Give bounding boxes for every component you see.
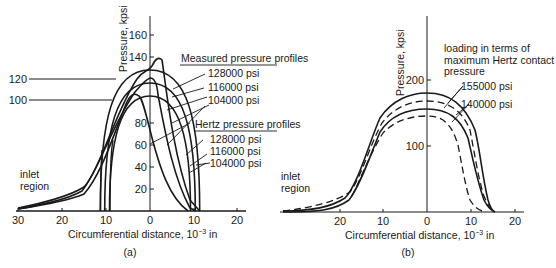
panel-a-xlabel: Circumferential distance, 10−3 in	[68, 228, 217, 240]
panel-a-xtick: 30	[12, 214, 24, 226]
panel-b-140000-hertz	[352, 116, 486, 212]
panel-b-xtick: 20	[509, 215, 521, 227]
panel-b-155000-measured	[283, 93, 495, 212]
panel-a-xtick: 20	[56, 214, 68, 226]
panel-a-xtick: 10	[100, 214, 112, 226]
panel-a-caption: (a)	[124, 246, 137, 258]
panel-a-labels: 30 20 10 0 10 20 20 40 60 80 100 120 140…	[9, 5, 309, 258]
panel-a-ytick: 40	[135, 161, 147, 173]
panel-b-xtick: 20	[334, 215, 346, 227]
panel-b-labels: 20 10 0 10 20 100 200 Pressure, kpsi inl…	[281, 29, 554, 258]
panel-b-140000-measured	[283, 109, 495, 212]
panel-a-legend-measured-title: Measured pressure profiles	[181, 52, 308, 64]
panel-b-caption: (b)	[402, 246, 415, 258]
panel-a-xtick: 10	[188, 214, 200, 226]
panel-a-ytick: 60	[135, 139, 147, 151]
panel-a-xtick: 20	[231, 214, 243, 226]
panel-b-ylabel: Pressure, kpsi	[394, 29, 406, 96]
figure: 30 20 10 0 10 20 20 40 60 80 100 120 140…	[0, 0, 556, 268]
panel-b-155000-hertz	[283, 101, 494, 212]
panel-a-legend-hertz-title: Hertz pressure profiles	[195, 118, 301, 130]
panel-b-xlabel: Circumferential distance, 10−3 in	[345, 229, 494, 241]
panel-a-xtick: 0	[147, 214, 153, 226]
panel-a	[16, 16, 277, 211]
panel-a-ytick: 120	[9, 73, 27, 85]
panel-b-inlet-label: region	[281, 182, 310, 194]
panel-b-xtick: 10	[377, 215, 389, 227]
panel-a-ytick: 160	[129, 29, 147, 41]
panel-a-ytick: 20	[135, 183, 147, 195]
panel-b-legend-item: 140000 psi	[461, 98, 512, 110]
panel-a-legend-hertz-item: 128000 psi	[210, 133, 261, 145]
panel-b-xtick: 10	[465, 215, 477, 227]
panel-a-ylabel: Pressure, kpsi	[117, 5, 129, 72]
panel-b-legend-item: 155000 psi	[461, 80, 512, 92]
panel-a-ytick: 100	[9, 94, 27, 106]
panel-a-legend-hertz-item: 116000 psi	[210, 145, 261, 157]
panel-b-legend-title: pressure	[444, 65, 485, 77]
panel-a-inlet-label: inlet	[20, 168, 39, 180]
panel-a-ytick: 140	[129, 51, 147, 63]
panel-a-legend-measured-item: 116000 psi	[208, 81, 259, 93]
panel-a-legend-measured-item: 104000 psi	[208, 94, 259, 106]
panel-b-ytick: 200	[406, 74, 424, 86]
panel-b-legend-title: loading in terms of	[444, 42, 530, 54]
panel-b-ytick: 100	[406, 140, 424, 152]
panel-b-inlet-label: inlet	[281, 170, 300, 182]
panel-a-ytick: 80	[135, 117, 147, 129]
panel-b-xtick: 0	[424, 215, 430, 227]
panel-a-inlet-label: region	[20, 180, 49, 192]
panel-a-legend-measured-item: 128000 psi	[208, 67, 259, 79]
panel-a-legend-hertz-item: 104000 psi	[210, 157, 261, 169]
